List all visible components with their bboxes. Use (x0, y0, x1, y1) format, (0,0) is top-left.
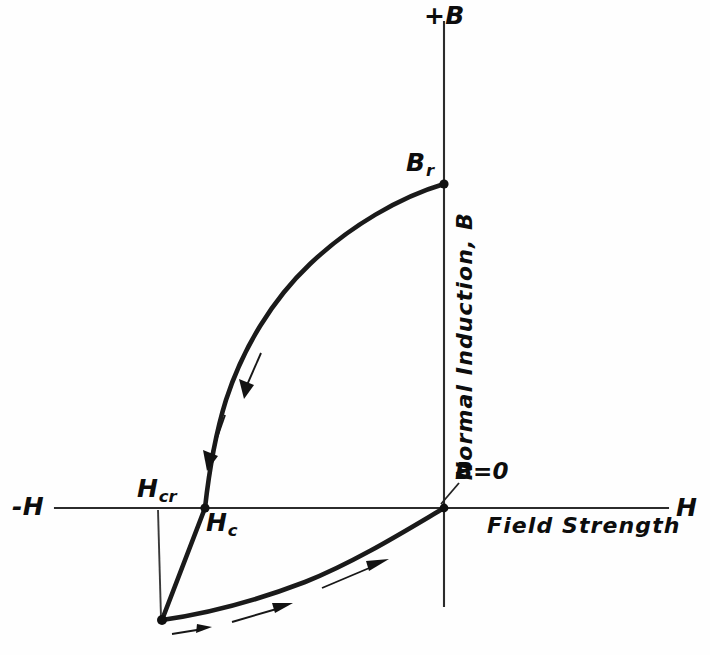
origin-point-dot (440, 504, 449, 513)
axis-label-minus-h: -H (12, 492, 44, 521)
hysteresis-figure: +B -H H Br Hcr Hc B=0 Field Strength Nor… (0, 0, 710, 655)
coercive-recoil-label: Hcr (137, 474, 177, 506)
hcr-tick-line (158, 510, 161, 618)
direction-arrow-return-upper (322, 559, 389, 588)
coercive-label: Hc (206, 508, 238, 540)
coercive-recoil-label-base: H (137, 474, 158, 503)
coercive-label-base: H (206, 508, 227, 537)
remanence-label-subscript: r (425, 161, 434, 180)
negative-saturation-point-dot (157, 615, 167, 625)
y-axis-title: Normal Induction, B (452, 212, 477, 480)
remanence-label: Br (406, 148, 434, 180)
remanence-label-base: B (406, 148, 425, 177)
figure-canvas (0, 0, 710, 655)
remanence-point-dot (439, 179, 448, 188)
direction-arrow-return-lower (232, 603, 293, 622)
return-curve (162, 508, 444, 620)
demagnetization-curve (162, 184, 444, 620)
coercive-recoil-label-subscript: cr (158, 487, 176, 506)
coercive-label-subscript: c (227, 521, 237, 540)
axis-label-plus-b: +B (424, 1, 465, 30)
x-axis-title: Field Strength (487, 513, 681, 538)
direction-arrow-bottom-left (172, 624, 212, 634)
